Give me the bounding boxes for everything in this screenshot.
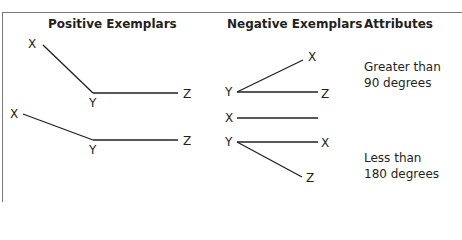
attribute-less-than-180: Less than 180 degrees	[364, 150, 439, 182]
neg1-label-y: Y	[225, 86, 232, 98]
neg1-label-z: Z	[321, 88, 329, 100]
pos2-label-x: X	[10, 108, 18, 120]
pos2-ray-yx	[23, 114, 93, 140]
neg2-label-x: X	[225, 112, 233, 124]
attribute-1-line1: Greater than	[364, 59, 441, 75]
neg3-label-y: Y	[225, 136, 232, 148]
attribute-2-line1: Less than	[364, 150, 439, 166]
pos2-label-y: Y	[89, 144, 96, 156]
neg3-label-x: X	[321, 137, 329, 149]
pos2-label-z: Z	[183, 135, 191, 147]
pos1-label-y: Y	[89, 97, 96, 109]
attribute-2-line2: 180 degrees	[364, 166, 439, 182]
neg3-ray-yz	[237, 142, 302, 177]
attribute-greater-than-90: Greater than 90 degrees	[364, 59, 441, 91]
neg3-label-z: Z	[306, 172, 314, 184]
pos1-label-z: Z	[183, 88, 191, 100]
pos1-ray-yx	[43, 45, 93, 93]
pos1-label-x: X	[28, 38, 36, 50]
attribute-1-line2: 90 degrees	[364, 75, 441, 91]
neg1-label-x: X	[308, 51, 316, 63]
neg1-ray-yx	[237, 60, 303, 92]
